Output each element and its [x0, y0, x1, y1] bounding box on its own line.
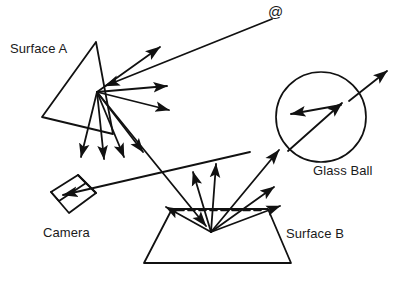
label-camera: Camera [43, 225, 90, 240]
rays-from-surface-b [166, 150, 280, 232]
label-glass-ball: Glass Ball [313, 163, 373, 178]
label-surface-a: Surface A [10, 41, 67, 56]
camera-shape [51, 175, 96, 213]
label-surface-b: Surface B [286, 226, 344, 241]
rays-from-surface-a [81, 47, 206, 226]
light-source-icon: @ [268, 3, 283, 20]
ray-source-to-surface-a [105, 19, 272, 86]
diagram-canvas: Surface A Camera Glass Ball Surface B @ [0, 0, 397, 281]
surface-b-shape [144, 209, 291, 263]
ray-to-camera [63, 152, 250, 195]
rays-glass-ball [288, 71, 387, 151]
